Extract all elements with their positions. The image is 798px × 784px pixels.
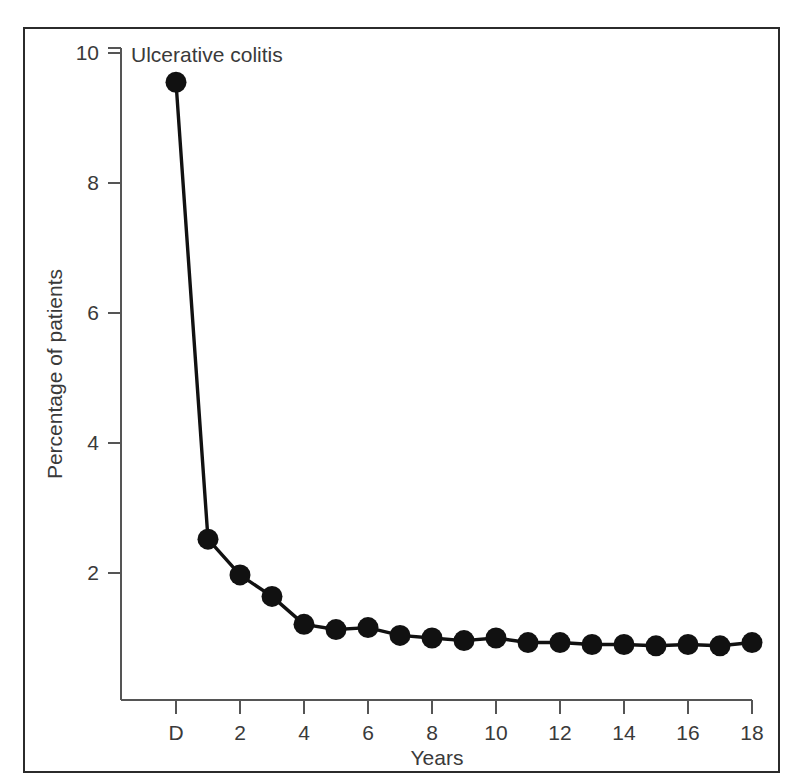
x-tick-label: 2	[234, 721, 246, 744]
data-series	[166, 72, 763, 657]
x-tick-label: 8	[426, 721, 438, 744]
data-point-marker	[486, 628, 507, 649]
x-axis-ticks: D24681012141618	[168, 700, 763, 744]
y-tick-label: 2	[87, 561, 99, 584]
data-point-marker	[646, 635, 667, 656]
figure-page: 246810 D24681012141618 Ulcerative coliti…	[0, 0, 798, 784]
data-point-marker	[742, 632, 763, 653]
x-tick-label: 4	[298, 721, 310, 744]
data-point-marker	[390, 625, 411, 646]
data-point-marker	[614, 634, 635, 655]
x-tick-label: 16	[676, 721, 699, 744]
x-tick-label: 12	[548, 721, 571, 744]
data-point-marker	[294, 614, 315, 635]
chart-axes	[108, 48, 752, 714]
x-tick-label: 14	[612, 721, 636, 744]
data-point-marker	[710, 635, 731, 656]
x-axis-title: Years	[411, 746, 464, 769]
data-point-marker	[422, 628, 443, 649]
data-point-marker	[262, 586, 283, 607]
x-tick-label: 10	[484, 721, 507, 744]
data-point-marker	[230, 564, 251, 585]
y-tick-label: 10	[76, 41, 99, 64]
plot-title: Ulcerative colitis	[131, 43, 283, 66]
y-axis-title: Percentage of patients	[43, 269, 66, 479]
data-point-marker	[198, 529, 219, 550]
y-tick-label: 6	[87, 301, 99, 324]
data-point-marker	[326, 619, 347, 640]
data-point-marker	[518, 632, 539, 653]
data-point-marker	[678, 634, 699, 655]
y-axis-ticks: 246810	[76, 41, 121, 584]
x-tick-label: D	[168, 721, 183, 744]
y-tick-label: 8	[87, 171, 99, 194]
data-point-marker	[582, 634, 603, 655]
line-chart: 246810 D24681012141618 Ulcerative coliti…	[0, 0, 798, 784]
data-point-marker	[550, 632, 571, 653]
x-tick-label: 18	[740, 721, 763, 744]
series-line	[176, 82, 752, 646]
data-point-marker	[358, 617, 379, 638]
data-point-marker	[166, 72, 187, 93]
y-tick-label: 4	[87, 431, 99, 454]
data-point-marker	[454, 630, 475, 651]
x-tick-label: 6	[362, 721, 374, 744]
